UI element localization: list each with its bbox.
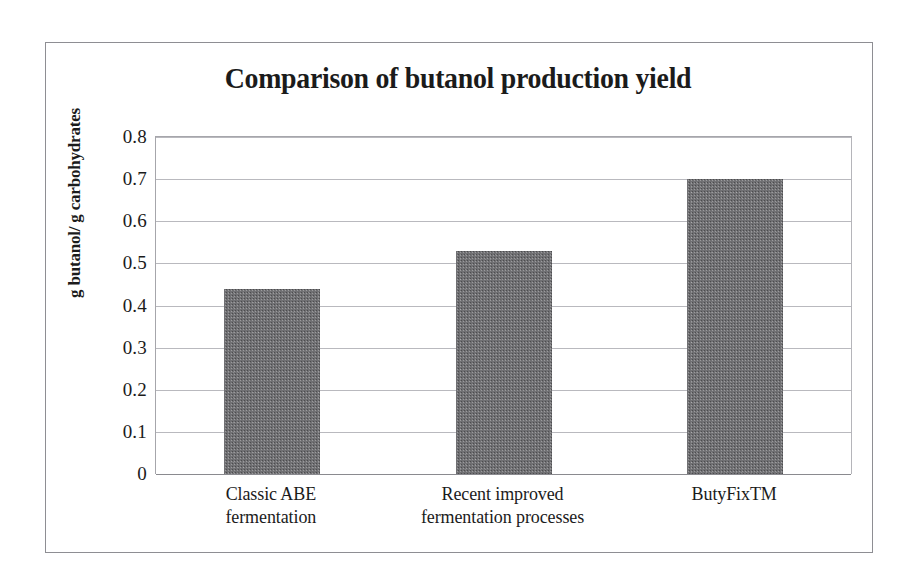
plot-area — [155, 136, 852, 474]
y-axis-title: g butanol/ g carbohydrates — [65, 88, 85, 318]
category-label-line: ButyFixTM — [604, 483, 864, 506]
chart-title: Comparison of butanol production yield — [18, 62, 897, 95]
y-tick-label: 0.1 — [95, 421, 147, 440]
category-label: Classic ABEfermentation — [141, 483, 401, 528]
category-label: Recent improvedfermentation processes — [373, 483, 633, 528]
y-tick-label: 0.2 — [95, 379, 147, 398]
y-tick-label: 0.4 — [95, 295, 147, 314]
y-tick-label: 0.7 — [95, 169, 147, 188]
y-tick-label: 0.8 — [95, 127, 147, 146]
y-axis-tick-labels: 0.80.70.60.50.40.30.20.10 — [95, 136, 147, 473]
y-tick-label: 0.6 — [95, 211, 147, 230]
x-axis-baseline — [156, 474, 851, 475]
y-tick-label: 0 — [95, 464, 147, 483]
bar — [224, 289, 320, 474]
category-label-line: Recent improved — [373, 483, 633, 506]
y-tick-label: 0.5 — [95, 253, 147, 272]
bar — [687, 179, 783, 474]
category-label-line: Classic ABE — [141, 483, 401, 506]
category-label-line: fermentation — [141, 506, 401, 529]
category-label-line: fermentation processes — [373, 506, 633, 529]
category-label: ButyFixTM — [604, 483, 864, 506]
bar — [456, 251, 552, 474]
y-tick-label: 0.3 — [95, 337, 147, 356]
gridline — [156, 137, 851, 138]
